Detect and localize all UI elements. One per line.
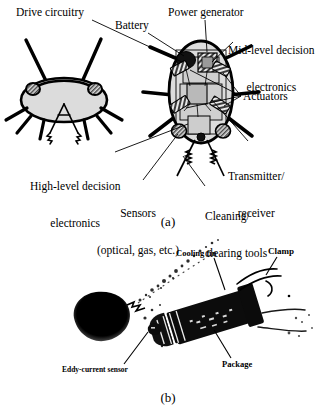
label-clamp: Clamp — [268, 247, 294, 257]
sensor-pod-right — [216, 124, 231, 138]
label-battery: Battery — [115, 19, 149, 31]
label-cleaning-tools: Cleaning/ clearing tools — [205, 185, 267, 284]
label-sensors: Sensors (optical, gas, etc.) — [97, 182, 179, 281]
label-sensors-line2: (optical, gas, etc.) — [97, 244, 179, 256]
label-transmitter-line1: Transmitter/ — [228, 170, 284, 182]
mid-level-electronics-component — [187, 84, 207, 104]
panel-letter-a: (a) — [148, 214, 188, 230]
label-power-generator: Power generator — [168, 6, 244, 18]
label-eddy-current-sensor: Eddy-current sensor — [62, 366, 128, 374]
label-package: Package — [222, 360, 252, 369]
label-actuators: Actuators — [243, 90, 288, 102]
high-level-electronics-component — [188, 116, 210, 134]
figure-container: Drive circuitry Battery Power generator … — [0, 0, 336, 419]
sensor-pod-left — [172, 124, 187, 138]
label-cooling-fin: Cooling fin — [176, 249, 216, 258]
panel-letter-b: (b) — [148, 390, 188, 406]
label-mid-level-electronics: Mid-level decision electronics — [228, 19, 315, 118]
label-mid-level-line1: Mid-level decision — [228, 44, 315, 56]
label-cleaning-line1: Cleaning/ — [205, 210, 267, 222]
label-drive-circuitry: Drive circuitry — [16, 6, 84, 18]
